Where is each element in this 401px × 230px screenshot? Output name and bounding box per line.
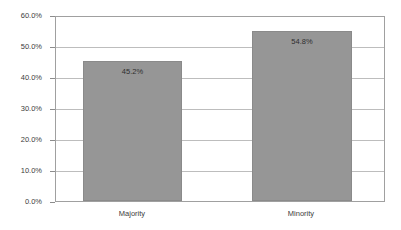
y-axis: 60.0% 50.0% 40.0% 30.0% 20.0% 10.0% 0.0% bbox=[0, 0, 50, 230]
x-category-label-minority: Minority bbox=[288, 209, 314, 218]
y-tick-label-10: 10.0% bbox=[21, 167, 42, 175]
bar-value-majority: 45.2% bbox=[84, 67, 181, 76]
y-tick-label-30: 30.0% bbox=[21, 105, 42, 113]
x-category-label-majority: Majority bbox=[119, 209, 145, 218]
y-tick-mark-0 bbox=[50, 202, 55, 203]
y-tick-label-20: 20.0% bbox=[21, 136, 42, 144]
bar-minority[interactable]: 54.8% bbox=[252, 31, 352, 201]
bar-value-minority: 54.8% bbox=[253, 37, 351, 46]
y-tick-label-60: 60.0% bbox=[21, 12, 42, 20]
bar-majority[interactable]: 45.2% bbox=[83, 61, 182, 201]
plot-area: 45.2% 54.8% bbox=[55, 16, 385, 202]
y-tick-label-0: 0.0% bbox=[25, 198, 42, 206]
bar-chart: 60.0% 50.0% 40.0% 30.0% 20.0% 10.0% 0.0%… bbox=[0, 0, 401, 230]
y-tick-label-50: 50.0% bbox=[21, 43, 42, 51]
y-tick-label-40: 40.0% bbox=[21, 74, 42, 82]
